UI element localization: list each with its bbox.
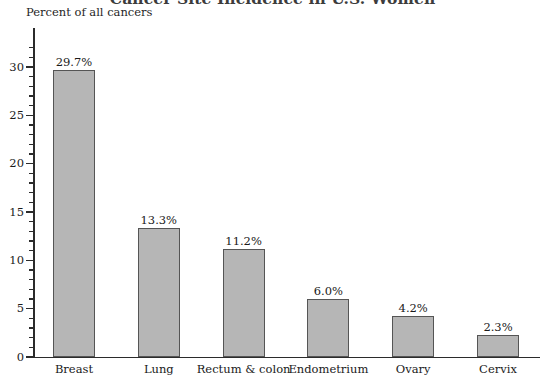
y-tick-minor bbox=[29, 134, 34, 135]
y-tick-label: 10 bbox=[0, 253, 24, 267]
y-tick-minor bbox=[29, 192, 34, 193]
y-tick-minor bbox=[29, 76, 34, 77]
bar bbox=[307, 299, 349, 357]
bar-value-label: 29.7% bbox=[44, 55, 104, 69]
bar-value-label: 13.3% bbox=[129, 213, 189, 227]
bar bbox=[53, 70, 95, 357]
y-tick-minor bbox=[29, 47, 34, 48]
bar bbox=[223, 249, 265, 357]
y-tick-minor bbox=[29, 124, 34, 125]
y-tick-minor bbox=[29, 173, 34, 174]
y-tick-minor bbox=[29, 95, 34, 96]
y-tick-minor bbox=[29, 318, 34, 319]
y-tick-minor bbox=[29, 182, 34, 183]
y-tick-major bbox=[26, 115, 34, 116]
y-tick-label: 25 bbox=[0, 108, 24, 122]
y-tick-label: 30 bbox=[0, 60, 24, 74]
bar-value-label: 2.3% bbox=[468, 320, 528, 334]
y-tick-minor bbox=[29, 279, 34, 280]
bar-value-label: 4.2% bbox=[383, 301, 443, 315]
y-tick-minor bbox=[29, 240, 34, 241]
y-tick-minor bbox=[29, 347, 34, 348]
y-tick-minor bbox=[29, 269, 34, 270]
y-tick-minor bbox=[29, 298, 34, 299]
y-tick-major bbox=[26, 308, 34, 309]
y-tick-minor bbox=[29, 289, 34, 290]
y-tick-label: 5 bbox=[0, 301, 24, 315]
x-category-label: Cervix bbox=[443, 362, 545, 376]
y-tick-label: 20 bbox=[0, 156, 24, 170]
y-tick-minor bbox=[29, 327, 34, 328]
x-axis-line bbox=[33, 357, 540, 359]
bar-chart: Cancer Site Incidence in U.S. Women Perc… bbox=[0, 0, 545, 384]
y-tick-major bbox=[26, 356, 34, 357]
y-tick-major bbox=[26, 211, 34, 212]
y-tick-minor bbox=[29, 337, 34, 338]
y-tick-minor bbox=[29, 231, 34, 232]
bar bbox=[477, 335, 519, 357]
bar-value-label: 6.0% bbox=[298, 284, 358, 298]
bar bbox=[392, 316, 434, 357]
y-tick-minor bbox=[29, 221, 34, 222]
y-tick-minor bbox=[29, 144, 34, 145]
bar bbox=[138, 228, 180, 357]
y-tick-minor bbox=[29, 250, 34, 251]
y-tick-minor bbox=[29, 105, 34, 106]
y-tick-minor bbox=[29, 202, 34, 203]
y-tick-major bbox=[26, 66, 34, 67]
y-tick-minor bbox=[29, 57, 34, 58]
y-tick-major bbox=[26, 260, 34, 261]
bar-value-label: 11.2% bbox=[214, 234, 274, 248]
y-tick-minor bbox=[29, 153, 34, 154]
y-tick-label: 15 bbox=[0, 205, 24, 219]
y-axis-label: Percent of all cancers bbox=[26, 5, 153, 19]
y-tick-minor bbox=[29, 86, 34, 87]
y-tick-major bbox=[26, 163, 34, 164]
